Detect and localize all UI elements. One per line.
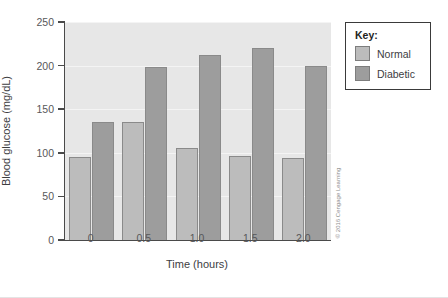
y-axis-tick xyxy=(58,196,65,198)
x-axis-tick-label: 0.5 xyxy=(136,232,151,244)
y-axis-tick-label: 50 xyxy=(42,190,54,202)
x-axis-tick-label: 1.0 xyxy=(190,232,205,244)
bar-diabetic-2.0 xyxy=(305,66,327,240)
y-axis-tick xyxy=(58,21,65,23)
y-axis-title: Blood glucose (mg/dL) xyxy=(0,76,12,186)
bar-diabetic-0.5 xyxy=(145,67,167,240)
y-axis-tick xyxy=(58,108,65,110)
bar-diabetic-1.0 xyxy=(199,55,221,240)
y-axis-tick-label: 250 xyxy=(36,16,54,28)
gridline xyxy=(65,22,331,23)
legend-item-normal[interactable]: Normal xyxy=(355,46,430,61)
y-axis-tick-label: 150 xyxy=(36,103,54,115)
bar-normal-2.0 xyxy=(282,158,304,240)
legend-label-normal: Normal xyxy=(377,48,411,60)
x-axis-tick-label: 2.0 xyxy=(296,232,311,244)
x-axis-tick-label: 1.5 xyxy=(243,232,258,244)
bar-diabetic-0 xyxy=(92,122,114,240)
bar-diabetic-1.5 xyxy=(252,48,274,240)
y-axis-tick-label: 100 xyxy=(36,147,54,159)
y-axis-tick xyxy=(58,65,65,67)
plot-area: 050100150200250 xyxy=(64,22,331,241)
bar-normal-0.5 xyxy=(122,122,144,240)
bar-normal-1.0 xyxy=(176,148,198,240)
x-axis-title: Time (hours) xyxy=(166,258,228,270)
bar-normal-0 xyxy=(69,157,91,240)
copyright-credit: © 2016 Cengage Learning xyxy=(335,168,341,238)
y-axis-tick xyxy=(58,239,65,241)
y-axis-tick-label: 200 xyxy=(36,60,54,72)
y-axis-tick xyxy=(58,152,65,154)
legend-swatch-normal xyxy=(355,46,370,61)
legend-item-diabetic[interactable]: Diabetic xyxy=(355,66,430,81)
legend-label-diabetic: Diabetic xyxy=(377,68,415,80)
x-axis-tick-label: 0 xyxy=(88,232,94,244)
legend-swatch-diabetic xyxy=(355,66,370,81)
legend-title: Key: xyxy=(355,29,430,41)
chart-legend: Key: Normal Diabetic xyxy=(345,22,431,90)
bar-normal-1.5 xyxy=(229,156,251,240)
y-axis-tick-label: 0 xyxy=(48,234,54,246)
bar-chart-figure: Blood glucose (mg/dL) 050100150200250 Ti… xyxy=(0,0,448,298)
